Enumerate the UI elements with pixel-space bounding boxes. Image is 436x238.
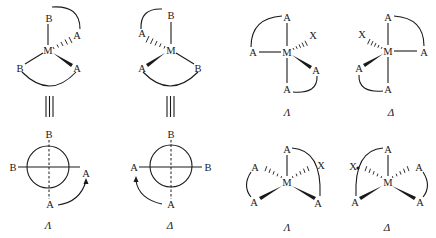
atom-a-bottom: A — [384, 84, 392, 95]
wedge-bond-m-a — [363, 54, 383, 67]
label-lambda: Λ — [283, 106, 291, 118]
wedge-bond-m-a — [292, 55, 312, 69]
wedge-bond-m-a-lower-left — [359, 186, 382, 200]
hashed-bond-m-a — [53, 37, 72, 49]
chelate-arc-a-a-right — [293, 76, 317, 92]
chelate-arc-a-a-left — [251, 16, 282, 47]
panel-tetrahedral-lambda-perspective: B M A B A — [16, 7, 81, 117]
label-lambda: Λ — [283, 221, 291, 233]
atom-b-top: B — [45, 129, 52, 140]
atom-a-left: A — [130, 162, 138, 173]
atom-a-upper-left: A — [251, 162, 259, 173]
atom-b-right: B — [194, 63, 201, 74]
wedge-bond-m-a-lower-right — [292, 186, 316, 200]
atom-a-bottom: A — [46, 199, 54, 210]
panel-octahedral-lambda-top: A M X A A A Λ — [249, 12, 320, 119]
atom-b-top: B — [167, 10, 174, 21]
chelate-arc-b-a — [52, 7, 80, 29]
atom-b-left: B — [9, 162, 16, 173]
atom-a-wedge: A — [355, 63, 363, 74]
panel-tetrahedral-delta-perspective: B M A A B — [138, 9, 201, 117]
chelate-arc-a-a-right — [394, 16, 424, 46]
atom-x: X — [317, 160, 325, 171]
atom-m: M — [282, 47, 292, 58]
atom-a-top: A — [384, 144, 392, 155]
label-delta: Δ — [387, 106, 394, 118]
atom-b-top: B — [45, 13, 52, 24]
atom-m: M — [383, 46, 393, 57]
rotation-arrow — [58, 181, 86, 205]
wedge-bond-m-a-lower-right — [392, 186, 416, 200]
atom-m: M — [166, 45, 176, 56]
atom-a-wedge: A — [312, 65, 320, 76]
bond-m-b-left — [25, 53, 43, 64]
hashed-bond-m-x — [368, 39, 382, 49]
atom-a-bottom: A — [167, 199, 175, 210]
atom-b-left: B — [16, 63, 23, 74]
atom-a-wedge: A — [138, 63, 146, 74]
atom-a-top: A — [283, 144, 291, 155]
panel-octahedral-delta-bottom: A M X A A A Δ — [349, 144, 427, 234]
atom-m: M — [383, 177, 393, 188]
atom-b-top: B — [167, 129, 174, 140]
hashed-bond-m-x — [292, 166, 309, 178]
atom-a-lower-right: A — [314, 198, 322, 209]
panel-octahedral-lambda-bottom: A M A X A A Λ — [247, 144, 326, 234]
chelate-arc-a-a-right — [423, 172, 428, 197]
atom-x: X — [358, 29, 366, 40]
atom-a-bottom: A — [283, 84, 291, 95]
label-delta: Δ — [166, 219, 173, 231]
hashed-bond-m-a — [146, 36, 165, 49]
chelate-arc-b-a-bottom — [22, 72, 76, 86]
bond-m-b-right — [176, 53, 194, 64]
hashed-bond-m-x — [293, 41, 307, 50]
atom-a-upper-right: A — [415, 162, 423, 173]
atom-a-top: A — [384, 12, 392, 23]
junction-dot — [356, 166, 359, 169]
panel-octahedral-delta-top: A M X A A A Δ — [355, 12, 428, 119]
arrow-head-icon — [84, 178, 89, 184]
chirality-diagram: B M A B A B B A A Λ — [0, 0, 436, 238]
atom-a-right: A — [82, 168, 90, 179]
atom-x: X — [309, 30, 317, 41]
atom-a-lower-left: A — [351, 197, 359, 208]
atom-m: M — [43, 45, 53, 56]
atom-a-left: A — [249, 47, 257, 58]
atom-a-right: A — [420, 47, 428, 58]
atom-a-hashed: A — [138, 28, 146, 39]
wedge-bond-m-a — [146, 53, 165, 67]
hashed-bond-m-x — [365, 166, 382, 178]
panel-tetrahedral-delta-projection: B A B A Δ — [130, 129, 211, 232]
rotation-arrow — [136, 181, 162, 204]
label-delta: Δ — [383, 221, 390, 233]
hashed-bond-m-a-upper-left — [265, 166, 282, 178]
wedge-bond-m-a-lower-left — [259, 186, 282, 200]
hashed-bond-m-a-upper-right — [392, 166, 409, 178]
atom-a-hashed: A — [73, 30, 81, 41]
chelate-arc-a-a-right — [292, 148, 320, 196]
label-lambda: Λ — [44, 219, 52, 231]
arrow-head-icon — [134, 176, 139, 182]
chelate-arc-a-b-bottom — [143, 72, 198, 86]
atom-a-lower-right: A — [416, 197, 424, 208]
chelate-arc-a-a-left — [247, 172, 252, 197]
atom-x: X — [349, 161, 357, 172]
atom-b-right: B — [204, 162, 211, 173]
equivalence-icon — [46, 96, 53, 117]
wedge-bond-m-a — [53, 53, 73, 67]
equivalence-icon — [167, 96, 174, 117]
panel-tetrahedral-lambda-projection: B B A A Λ — [9, 129, 90, 232]
atom-a-top: A — [283, 12, 291, 23]
atom-m: M — [282, 177, 292, 188]
atom-a-wedge: A — [73, 63, 81, 74]
chelate-arc-a-b — [141, 9, 162, 29]
atom-a-lower-left: A — [250, 197, 258, 208]
chelate-arc-a-a-left — [359, 75, 383, 91]
